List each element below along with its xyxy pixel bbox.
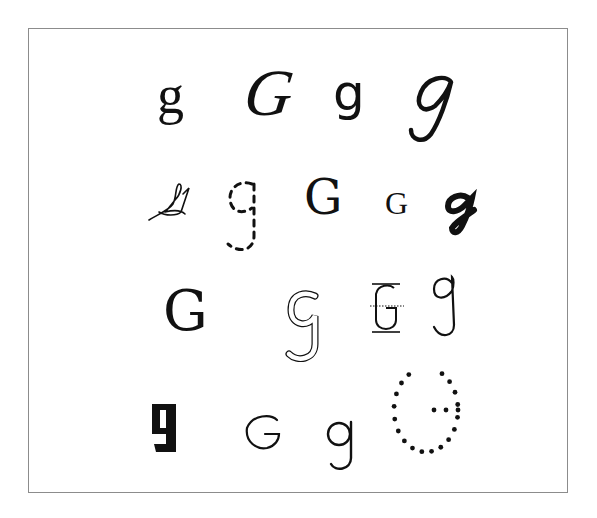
dot (438, 445, 443, 450)
dot (429, 449, 434, 454)
dot (410, 446, 415, 451)
dot (419, 449, 424, 454)
dot (455, 402, 460, 407)
glyph-handwritten-g (428, 275, 468, 345)
glyph-slab-G-large: G (163, 283, 208, 339)
dot (440, 371, 445, 376)
dot (444, 408, 449, 413)
glyph-dotted-G (388, 362, 468, 462)
dot (392, 404, 397, 409)
glyph-dashed-g (222, 178, 266, 258)
glyph-sans-g: g (333, 68, 365, 118)
dot (455, 415, 460, 420)
glyph-geometric-G (243, 412, 287, 456)
glyph-serif-g: g (157, 68, 184, 122)
glyph-pixel-bold-g (150, 400, 180, 460)
glyph-scribble-G (145, 180, 195, 230)
dot (394, 392, 399, 397)
glyph-script-g (405, 70, 465, 150)
dot (447, 379, 452, 384)
glyph-italic-serif-G: G (240, 60, 297, 126)
dot (446, 437, 451, 442)
glyph-geometric-g (325, 420, 361, 480)
dot (456, 408, 461, 413)
glyph-brush-g (442, 190, 482, 240)
glyph-slab-G: G (304, 173, 342, 221)
dot (396, 429, 401, 434)
dot (392, 417, 397, 422)
glyph-small-serif-G: G (385, 187, 408, 219)
glyph-guideline-G (370, 280, 410, 340)
dot (452, 427, 457, 432)
dot (399, 381, 404, 386)
dot (406, 372, 411, 377)
glyph-outline-g (283, 290, 323, 370)
illustration-frame (28, 28, 568, 493)
dot (453, 390, 458, 395)
dot (432, 408, 437, 413)
dot (402, 439, 407, 444)
